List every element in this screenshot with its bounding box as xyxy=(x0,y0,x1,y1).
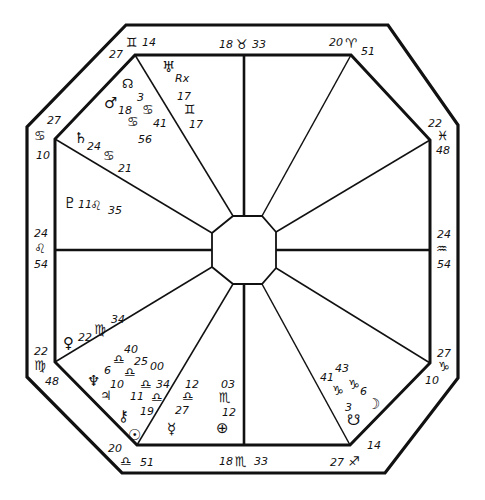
svg-text:12: 12 xyxy=(222,406,236,419)
svg-text:43: 43 xyxy=(335,362,349,375)
svg-text:♋: ♋ xyxy=(142,102,154,117)
svg-text:10: 10 xyxy=(425,374,439,387)
uranus-icon: ♅ xyxy=(162,58,175,76)
part-of-fortune-icon: ⊕ xyxy=(216,419,229,437)
pluto-icon: ♇ xyxy=(63,194,76,212)
chiron-icon: ⚷ xyxy=(118,407,129,425)
svg-text:25: 25 xyxy=(134,355,148,368)
sun-icon: ☉ xyxy=(128,426,141,444)
astrology-chart-wheel: 18 ♉ 33 20 ♈ 51 22 ♓ 48 24 ♒ 54 27 ♑ 10 … xyxy=(0,0,485,500)
planet-venus: ♀ 22 ♍ 34 xyxy=(63,313,125,352)
svg-text:♊: ♊ xyxy=(126,35,138,50)
center-octagon xyxy=(212,216,276,284)
svg-text:27: 27 xyxy=(330,456,344,469)
mars-icon: ♂ xyxy=(104,94,117,112)
svg-text:17: 17 xyxy=(189,118,203,131)
svg-text:54: 54 xyxy=(437,258,451,271)
north-node-icon: ☊ xyxy=(122,76,134,91)
svg-text:24: 24 xyxy=(34,227,48,240)
svg-text:♎: ♎ xyxy=(120,454,132,469)
svg-text:14: 14 xyxy=(142,36,156,49)
svg-text:♑: ♑ xyxy=(332,383,344,398)
svg-text:6: 6 xyxy=(360,385,367,398)
svg-text:♎: ♎ xyxy=(113,352,125,367)
svg-text:19: 19 xyxy=(140,405,154,418)
svg-text:51: 51 xyxy=(361,45,375,58)
svg-text:♎: ♎ xyxy=(140,377,152,392)
svg-text:♊: ♊ xyxy=(184,102,196,117)
svg-text:♏: ♏ xyxy=(235,454,247,469)
svg-text:41: 41 xyxy=(153,117,167,130)
svg-text:♋: ♋ xyxy=(103,148,115,163)
cusp-mc-label: 18 ♉ 33 xyxy=(219,37,266,52)
svg-text:♉: ♉ xyxy=(236,37,248,52)
svg-text:18: 18 xyxy=(219,38,233,51)
svg-text:14: 14 xyxy=(367,439,381,452)
planet-pluto: ♇ 11 ♌ 35 xyxy=(63,194,122,217)
neptune-icon: ♆ xyxy=(87,372,100,390)
svg-text:27: 27 xyxy=(175,404,189,417)
svg-text:00: 00 xyxy=(150,360,164,373)
svg-text:♌: ♌ xyxy=(34,241,46,256)
svg-text:♈: ♈ xyxy=(345,36,357,51)
svg-text:48: 48 xyxy=(436,144,450,157)
svg-text:24: 24 xyxy=(87,140,101,153)
svg-text:♓: ♓ xyxy=(437,128,449,143)
svg-text:10: 10 xyxy=(36,149,50,162)
svg-text:♒: ♒ xyxy=(436,241,448,256)
svg-text:27: 27 xyxy=(47,114,61,127)
svg-text:♐: ♐ xyxy=(348,454,360,469)
svg-text:21: 21 xyxy=(118,162,132,175)
svg-text:♏: ♏ xyxy=(219,390,231,405)
svg-text:56: 56 xyxy=(138,133,152,146)
svg-text:54: 54 xyxy=(34,258,48,271)
part-of-fortune: 03 ♏ 12 ⊕ xyxy=(216,378,236,437)
cusp-ic-label: 18 ♏ 33 xyxy=(219,454,268,469)
svg-text:♍: ♍ xyxy=(34,358,46,373)
mercury-icon: ☿ xyxy=(167,420,176,438)
svg-text:51: 51 xyxy=(140,456,154,469)
svg-text:Rx: Rx xyxy=(175,72,190,85)
svg-text:20: 20 xyxy=(329,36,343,49)
svg-text:♎: ♎ xyxy=(182,389,194,404)
svg-text:♍: ♍ xyxy=(94,322,106,337)
svg-text:♑: ♑ xyxy=(438,359,450,374)
svg-text:22: 22 xyxy=(34,345,48,358)
svg-text:♌: ♌ xyxy=(90,198,102,213)
svg-text:35: 35 xyxy=(108,204,122,217)
svg-text:6: 6 xyxy=(104,364,111,377)
south-node-icon: ☋ xyxy=(347,411,360,429)
svg-text:34: 34 xyxy=(156,378,170,391)
svg-text:22: 22 xyxy=(78,331,92,344)
svg-text:27: 27 xyxy=(109,48,123,61)
moon-icon: ☽ xyxy=(367,395,380,413)
planet-uranus: ♅ Rx 17 ♊ 17 xyxy=(162,58,203,131)
svg-text:10: 10 xyxy=(110,378,124,391)
saturn-icon: ♄ xyxy=(74,129,87,147)
svg-text:18: 18 xyxy=(219,455,233,468)
svg-text:24: 24 xyxy=(437,228,451,241)
cusp-dsc-label: 24 ♌ 54 xyxy=(34,227,48,271)
svg-text:33: 33 xyxy=(252,38,266,51)
svg-text:48: 48 xyxy=(45,375,59,388)
svg-text:♑: ♑ xyxy=(348,377,360,392)
svg-text:♋: ♋ xyxy=(34,128,46,143)
svg-text:34: 34 xyxy=(111,313,125,326)
svg-text:33: 33 xyxy=(254,455,268,468)
venus-icon: ♀ xyxy=(63,334,74,352)
svg-text:♋: ♋ xyxy=(127,114,139,129)
svg-text:♎: ♎ xyxy=(151,390,163,405)
cusp-asc-label: 24 ♒ 54 xyxy=(436,228,451,271)
